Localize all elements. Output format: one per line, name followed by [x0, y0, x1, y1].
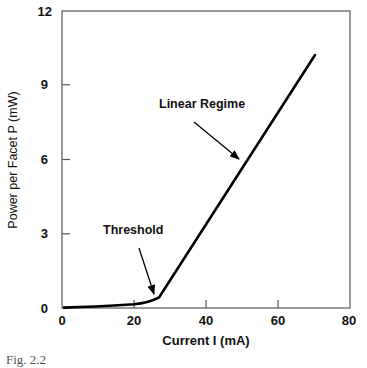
figure-caption: Fig. 2.2 [6, 352, 46, 368]
x-tick-20: 20 [127, 313, 141, 328]
y-tick-3: 3 [41, 226, 48, 241]
y-axis-title: Power per Facet P (mW) [6, 91, 20, 228]
y-tick-labels: 0 3 6 9 12 [38, 4, 52, 316]
x-axis-title: Current I (mA) [162, 333, 249, 348]
linear-regime-arrow [194, 122, 239, 159]
plot-frame [62, 11, 350, 308]
x-tick-0: 0 [58, 313, 65, 328]
pi-curve-line [64, 55, 315, 308]
y-tick-9: 9 [41, 77, 48, 92]
y-ticks [62, 85, 70, 234]
x-tick-80: 80 [342, 313, 356, 328]
threshold-label: Threshold [103, 223, 163, 237]
y-tick-12: 12 [38, 4, 52, 19]
y-tick-0: 0 [41, 301, 48, 316]
x-tick-40: 40 [199, 313, 213, 328]
y-tick-6: 6 [41, 152, 48, 167]
x-ticks [134, 300, 278, 308]
x-tick-labels: 0 20 40 60 80 [58, 313, 356, 328]
threshold-arrow [139, 248, 154, 294]
x-tick-60: 60 [271, 313, 285, 328]
linear-regime-label: Linear Regime [159, 97, 245, 111]
